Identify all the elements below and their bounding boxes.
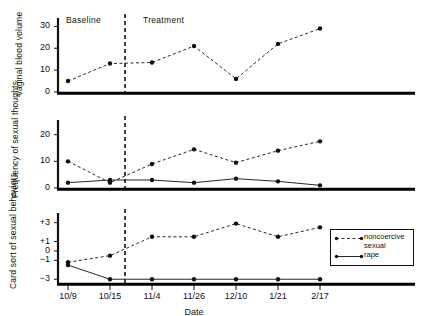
data-point-marker — [318, 26, 322, 30]
series-line-noncoercive-sexual — [68, 29, 320, 82]
legend-label-noncoercive-sexual: noncoercive sexual — [364, 233, 404, 250]
y-tick-label: 20 — [24, 42, 50, 52]
data-point-marker — [192, 180, 196, 184]
data-point-marker — [150, 162, 154, 166]
legend-label-rape: rape — [364, 251, 379, 260]
x-tick-label: 11/26 — [174, 291, 214, 301]
y-tick-label: 10 — [24, 155, 50, 165]
x-tick-label: 11/4 — [132, 291, 172, 301]
phase-label-baseline: Baseline — [66, 15, 101, 25]
x-tick-label: 12/10 — [216, 291, 256, 301]
data-point-marker — [150, 60, 154, 64]
y-tick-label: +3 — [24, 217, 50, 227]
y-tick-label: −1 — [24, 254, 50, 264]
data-point-marker — [66, 263, 70, 267]
panel-vaginal-blood-volume: Vaginal blood volume 0102030 — [0, 0, 421, 106]
data-point-marker — [108, 277, 112, 281]
data-point-marker — [318, 139, 322, 143]
data-point-marker — [276, 277, 280, 281]
data-point-marker — [66, 79, 70, 83]
data-point-marker — [234, 176, 238, 180]
x-axis-title: Date — [164, 307, 224, 316]
data-point-marker — [276, 235, 280, 239]
data-point-marker — [276, 42, 280, 46]
legend-item-rape: rape — [334, 251, 409, 261]
data-point-marker — [234, 160, 238, 164]
data-point-marker — [318, 183, 322, 187]
data-point-marker — [318, 277, 322, 281]
data-point-marker — [276, 148, 280, 152]
legend-key-dashed-icon — [334, 234, 364, 243]
data-point-marker — [150, 178, 154, 182]
data-point-marker — [66, 180, 70, 184]
data-point-marker — [276, 179, 280, 183]
y-tick-label: −3 — [24, 273, 50, 283]
data-point-marker — [108, 178, 112, 182]
data-point-marker — [192, 235, 196, 239]
data-point-marker — [108, 61, 112, 65]
x-tick-label: 1/21 — [258, 291, 298, 301]
panel-0-plot — [0, 0, 421, 106]
data-point-marker — [150, 235, 154, 239]
y-tick-label: 20 — [24, 129, 50, 139]
phase-label-treatment: Treatment — [143, 15, 184, 25]
legend-item-noncoercive-sexual: noncoercive sexual — [334, 233, 409, 250]
panel-2-y-axis-title: Card sort of sexual behaviors — [8, 201, 18, 289]
x-tick-label: 10/9 — [48, 291, 88, 301]
figure-container: Vaginal blood volume 0102030 Frequency o… — [0, 0, 421, 316]
y-tick-label: 10 — [24, 64, 50, 74]
data-point-marker — [108, 253, 112, 257]
data-point-marker — [192, 44, 196, 48]
data-point-marker — [192, 147, 196, 151]
data-point-marker — [234, 277, 238, 281]
panel-1-plot — [0, 106, 421, 201]
x-tick-label: 10/15 — [90, 291, 130, 301]
data-point-marker — [234, 221, 238, 225]
data-point-marker — [192, 277, 196, 281]
series-line-noncoercive-sexual — [68, 224, 320, 263]
data-point-marker — [318, 225, 322, 229]
y-tick-label: 0 — [24, 182, 50, 192]
y-tick-label: 30 — [24, 20, 50, 30]
legend-key-solid-icon — [334, 252, 364, 261]
data-point-marker — [66, 159, 70, 163]
legend: noncoercive sexual rape — [330, 229, 414, 266]
data-point-marker — [234, 77, 238, 81]
x-tick-label: 2/17 — [300, 291, 340, 301]
panel-frequency-sexual-thoughts: Frequency of sexual thoughts 01020 — [0, 106, 421, 201]
y-tick-label: 0 — [24, 86, 50, 96]
data-point-marker — [150, 277, 154, 281]
